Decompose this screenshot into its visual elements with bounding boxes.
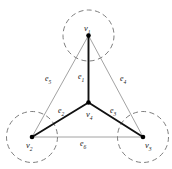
vertex-label-sub-v2: 2 [30, 146, 33, 152]
edge-label-e4: e4 [120, 75, 126, 85]
edge-label-e6: e6 [80, 140, 86, 150]
edge-label-e3: e3 [110, 107, 116, 117]
vertex-dot-group [30, 33, 146, 139]
edge-label-sub-e1: 1 [82, 77, 85, 83]
edge-e5 [32, 36, 89, 138]
vertex-dot-v2 [30, 135, 35, 140]
vertex-dot-v3 [141, 135, 146, 140]
vertex-label-sub-v3: 3 [149, 146, 152, 152]
vertex-label-sub-v4: 4 [90, 115, 93, 121]
vertex-label-v2: v2 [26, 141, 33, 152]
vertex-dot-v4 [86, 100, 91, 105]
edge-label-sub-e4: 4 [124, 79, 127, 85]
edge-label-e2: e2 [58, 107, 64, 117]
thick-edge-group [32, 36, 143, 138]
vertex-label-v3: v3 [145, 141, 152, 152]
edge-label-sub-e3: 3 [114, 111, 117, 117]
edge-e4 [89, 36, 144, 138]
edge-label-sub-e5: 5 [49, 79, 52, 85]
edge-label-e1: e1 [78, 73, 84, 83]
vertex-label-v1: v1 [84, 24, 91, 35]
thin-edge-group [32, 36, 143, 138]
edge-label-sub-e6: 6 [84, 144, 87, 150]
edge-label-e5: e5 [45, 75, 51, 85]
graph-diagram: v1v2v3v4e1e2e3e4e5e6 [0, 0, 172, 169]
edge-label-sub-e2: 2 [62, 111, 65, 117]
vertex-label-v4: v4 [86, 110, 93, 121]
vertex-label-sub-v1: 1 [88, 29, 91, 35]
